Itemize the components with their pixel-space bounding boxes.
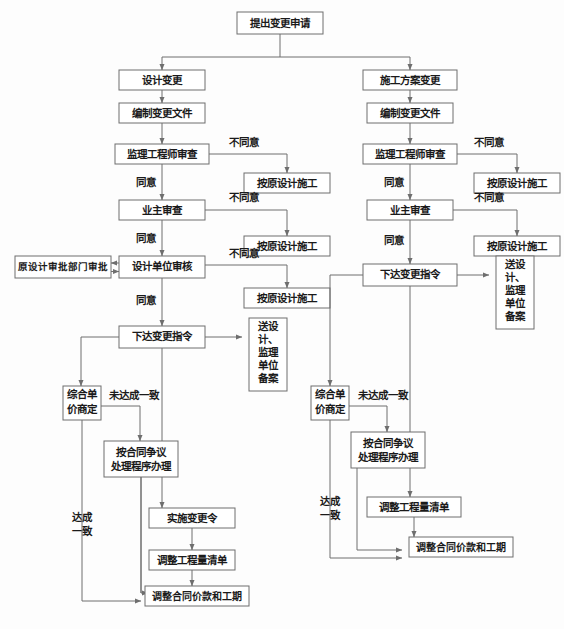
node-construction-adjust-boq-label: 调整工程量清单 — [379, 501, 450, 513]
node-design-owner-review[interactable]: 业主审查 — [119, 200, 205, 220]
node-design-filing-line-2: 计、 — [258, 333, 278, 345]
edge-label-agree-r1: 同意 — [384, 176, 405, 188]
node-design-filing-line-1: 送设 — [257, 320, 279, 332]
node-design-unit-review[interactable]: 设计单位审核 — [119, 256, 205, 278]
node-construction-filing-line-5: 备案 — [504, 310, 526, 322]
node-design-implement-label: 实施变更令 — [167, 512, 218, 524]
node-construction-dispute[interactable]: 按合同争议 处理程序办理 — [351, 432, 425, 468]
node-design-filing-line-5: 备案 — [257, 372, 279, 384]
node-design-adjust-boq[interactable]: 调整工程量清单 — [149, 550, 235, 570]
node-design-unit-review-label: 设计单位审核 — [132, 260, 193, 272]
node-construction-dispute-line-2: 处理程序办理 — [357, 451, 419, 463]
node-construction-unit-price[interactable]: 综合单 价商定 — [311, 386, 349, 420]
node-original-approval-dept[interactable]: 原设计审批部门审批 — [15, 256, 111, 278]
node-design-doc[interactable]: 编制变更文件 — [119, 103, 205, 123]
edge-n3-n4 — [209, 154, 287, 173]
edge-label-agree-2: 同意 — [136, 232, 157, 244]
node-design-supervisor-review[interactable]: 监理工程师审查 — [115, 144, 209, 164]
node-design-supervisor-review-label: 监理工程师审查 — [127, 148, 198, 160]
node-construction-unit-price-line-2: 价商定 — [315, 403, 346, 415]
node-design-original-1[interactable]: 按原设计施工 — [244, 173, 330, 193]
node-construction-doc[interactable]: 编制变更文件 — [367, 103, 453, 123]
edge-label-disagree-1: 不同意 — [229, 136, 260, 148]
node-design-dispute-line-2: 处理程序办理 — [110, 460, 172, 472]
node-construction-supervisor-review-label: 监理工程师审查 — [375, 148, 446, 160]
node-construction-filing[interactable]: 送设 计、 监理 单位 备案 — [496, 256, 534, 329]
node-design-change[interactable]: 设计变更 — [119, 70, 205, 90]
node-design-filing-line-3: 监理 — [258, 346, 279, 358]
edge-label-disagree-r1: 不同意 — [474, 136, 505, 148]
node-design-adjust-boq-label: 调整工程量清单 — [157, 554, 228, 566]
flowchart-canvas: 提出变更申请 设计变更 编制变更文件 监理工程师审查 不同意 按原设计施工 — [0, 0, 564, 629]
node-construction-filing-line-1: 送设 — [504, 258, 526, 270]
node-start-label: 提出变更申请 — [250, 17, 311, 29]
edge-n12-n13 — [101, 406, 140, 441]
node-design-unit-price-line-1: 综合单 — [67, 388, 98, 400]
node-construction-issue-order-label: 下达变更指令 — [380, 268, 441, 280]
edge-label-agree-r2: 同意 — [384, 234, 405, 246]
node-construction-original-2-label: 按原设计施工 — [487, 240, 548, 252]
edge-m9-m10 — [349, 406, 387, 432]
node-original-approval-dept-label: 原设计审批部门审批 — [18, 261, 108, 272]
node-design-change-label: 设计变更 — [142, 74, 183, 86]
node-design-implement[interactable]: 实施变更令 — [149, 508, 235, 528]
node-construction-change[interactable]: 施工方案变更 — [363, 70, 457, 90]
node-design-dispute[interactable]: 按合同争议 处理程序办理 — [104, 441, 178, 477]
node-construction-issue-order[interactable]: 下达变更指令 — [363, 264, 457, 286]
edge-n10-n12 — [81, 337, 119, 386]
edge-m5-m6 — [453, 210, 517, 236]
edge-label-agree-1: 同意 — [136, 176, 157, 188]
node-construction-change-label: 施工方案变更 — [380, 74, 441, 86]
node-construction-unit-price-line-1: 综合单 — [315, 388, 346, 400]
edge-n7-n9 — [205, 265, 287, 288]
node-design-unit-price-line-2: 价商定 — [67, 403, 98, 415]
node-design-doc-label: 编制变更文件 — [132, 107, 193, 119]
node-design-issue-order[interactable]: 下达变更指令 — [119, 326, 205, 348]
node-design-dispute-line-1: 按合同争议 — [116, 446, 167, 458]
node-design-issue-order-label: 下达变更指令 — [132, 330, 193, 342]
node-construction-dispute-line-1: 按合同争议 — [363, 437, 414, 449]
node-design-unit-price[interactable]: 综合单 价商定 — [63, 386, 101, 420]
edge-m3-m4 — [457, 154, 517, 173]
node-construction-original-1[interactable]: 按原设计施工 — [474, 173, 560, 193]
node-construction-doc-label: 编制变更文件 — [380, 107, 441, 119]
node-design-filing-line-4: 单位 — [258, 359, 279, 371]
node-construction-filing-line-4: 单位 — [505, 297, 526, 309]
node-start[interactable]: 提出变更申请 — [237, 12, 323, 34]
node-design-original-3[interactable]: 按原设计施工 — [244, 288, 330, 308]
node-construction-supervisor-review[interactable]: 监理工程师审查 — [363, 144, 457, 164]
node-design-original-2-label: 按原设计施工 — [257, 240, 318, 252]
node-design-adjust-contract-label: 调整合同价款和工期 — [152, 590, 242, 602]
edge-label-agree-3: 同意 — [136, 294, 157, 306]
edge-label-disagree-2: 不同意 — [229, 191, 260, 203]
edge-label-disagree-r2: 不同意 — [474, 191, 505, 203]
edge-label-disagree-3: 不同意 — [229, 247, 260, 259]
node-design-adjust-contract[interactable]: 调整合同价款和工期 — [145, 586, 249, 606]
node-construction-adjust-boq[interactable]: 调整工程量清单 — [367, 497, 461, 517]
node-construction-original-1-label: 按原设计施工 — [487, 177, 548, 189]
edge-start-split — [162, 34, 410, 70]
node-design-original-1-label: 按原设计施工 — [257, 177, 318, 189]
node-construction-adjust-contract-label: 调整合同价款和工期 — [416, 541, 506, 553]
node-construction-original-2[interactable]: 按原设计施工 — [474, 236, 560, 256]
edge-n5-n6 — [205, 210, 287, 236]
node-design-owner-review-label: 业主审查 — [142, 204, 183, 216]
node-construction-owner-review-label: 业主审查 — [390, 204, 431, 216]
node-construction-owner-review[interactable]: 业主审查 — [367, 200, 453, 220]
node-construction-filing-line-3: 监理 — [505, 284, 526, 296]
node-design-filing[interactable]: 送设 计、 监理 单位 备案 — [249, 318, 287, 391]
node-design-original-3-label: 按原设计施工 — [257, 292, 318, 304]
node-construction-adjust-contract[interactable]: 调整合同价款和工期 — [409, 537, 513, 557]
node-construction-filing-line-2: 计、 — [505, 271, 525, 283]
edge-label-not-agreed-right: 未达成一致 — [357, 389, 409, 401]
edge-m7-m9 — [330, 275, 363, 386]
flowchart-page: 提出变更申请 设计变更 编制变更文件 监理工程师审查 不同意 按原设计施工 — [0, 0, 564, 629]
edge-label-not-agreed-left: 未达成一致 — [108, 389, 160, 401]
